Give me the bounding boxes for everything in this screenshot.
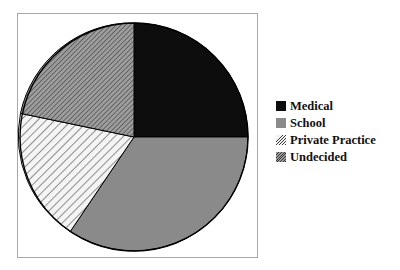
chart-legend: Medical School Private Practice Undecide… <box>276 98 396 166</box>
legend-swatch-private-practice-icon <box>276 135 286 145</box>
legend-swatch-undecided-icon <box>276 152 286 162</box>
legend-label-private-practice: Private Practice <box>290 133 376 147</box>
pie-slices <box>18 23 248 251</box>
legend-item-medical[interactable]: Medical <box>276 98 396 114</box>
legend-label-undecided: Undecided <box>290 150 347 164</box>
pie-slice-medical[interactable] <box>134 23 248 137</box>
legend-item-school[interactable]: School <box>276 115 396 131</box>
pie-chart-graphic <box>17 13 258 258</box>
legend-label-medical: Medical <box>290 99 333 113</box>
legend-swatch-school-icon <box>276 118 286 128</box>
legend-swatch-medical-icon <box>276 101 286 111</box>
legend-item-undecided[interactable]: Undecided <box>276 149 396 165</box>
pie-chart-figure: Medical School Private Practice Undecide… <box>0 0 400 270</box>
legend-label-school: School <box>290 116 325 130</box>
legend-item-private-practice[interactable]: Private Practice <box>276 132 396 148</box>
